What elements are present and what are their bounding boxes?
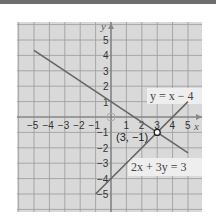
intersection-marker: [154, 129, 160, 135]
svg-text:−1: −1: [97, 127, 109, 138]
svg-text:4: 4: [103, 50, 109, 61]
svg-text:−5: −5: [27, 120, 39, 131]
y-axis-label: y: [100, 20, 106, 32]
svg-text:−3: −3: [58, 120, 70, 131]
svg-text:−4: −4: [42, 120, 54, 131]
svg-text:4: 4: [170, 120, 176, 131]
svg-text:1: 1: [123, 120, 129, 131]
graph: −5−4−3−2−112345 54321−1−2−3−4−5 y x y = …: [0, 0, 216, 223]
svg-text:−2: −2: [97, 143, 109, 154]
svg-text:2: 2: [103, 81, 109, 92]
svg-text:−2: −2: [73, 120, 85, 131]
svg-text:5: 5: [185, 120, 191, 131]
x-axis-label: x: [193, 120, 199, 132]
line1-label: y = x − 4: [150, 89, 194, 103]
line2-label: 2x + 3y = 3: [131, 160, 187, 174]
svg-text:−3: −3: [97, 158, 109, 169]
intersection-label: (3, −1): [116, 131, 148, 143]
svg-text:5: 5: [103, 35, 109, 46]
svg-text:3: 3: [103, 66, 109, 77]
